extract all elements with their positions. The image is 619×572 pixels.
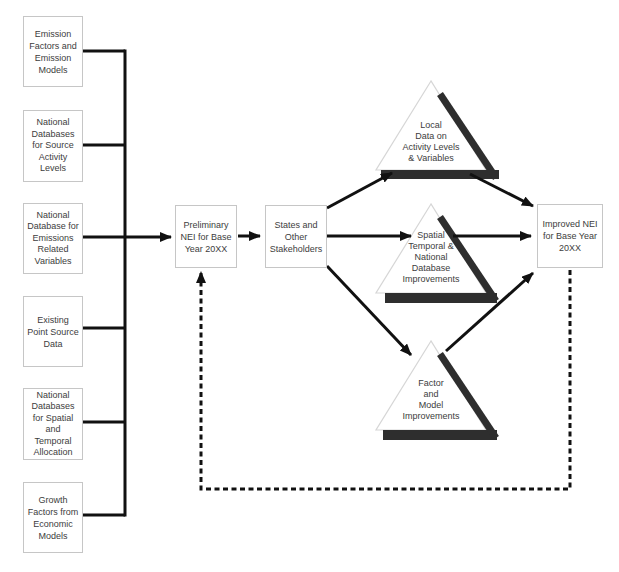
spatial-temporal-triangle-label: Spatial Temporal & National Database Imp… <box>371 230 491 285</box>
factor-model-triangle-base-shadow <box>383 430 497 440</box>
arrow-local-data-to-improved <box>470 174 533 206</box>
spatial-temporal-allocation-box: National Databases for Spatial and Tempo… <box>23 388 83 460</box>
diagram-graphics <box>0 0 619 572</box>
nei-process-diagram: Emission Factors and Emission Models Nat… <box>0 0 619 572</box>
spatial-temporal-triangle-base-shadow <box>385 293 497 303</box>
states-stakeholders-box: States and Other Stakeholders <box>265 205 327 268</box>
improved-nei-box: Improved NEI for Base Year 20XX <box>537 204 603 268</box>
emission-factors-box: Emission Factors and Emission Models <box>23 16 83 87</box>
preliminary-nei-box: Preliminary NEI for Base Year 20XX <box>175 205 237 268</box>
emissions-variables-box: National Database for Emissions Related … <box>23 203 83 274</box>
factor-model-triangle-label: Factor and Model Improvements <box>371 378 491 422</box>
arrow-states-to-local-data <box>327 173 392 208</box>
growth-factors-box: Growth Factors from Economic Models <box>23 482 83 553</box>
local-data-triangle-base-shadow <box>381 170 499 179</box>
local-data-triangle-label: Local Data on Activity Levels & Variable… <box>371 120 491 164</box>
point-source-box: Existing Point Source Data <box>23 296 83 367</box>
source-activity-box: National Databases for Source Activity L… <box>23 110 83 182</box>
